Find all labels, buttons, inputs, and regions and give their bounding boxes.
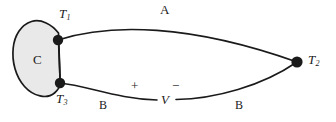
label-voltmeter-v: V: [161, 93, 169, 106]
thermocouple-diagram: T1 T3 T2 C A B B V + −: [0, 0, 336, 122]
label-polarity-positive: +: [131, 79, 138, 92]
label-wire-b-left: B: [99, 99, 107, 111]
label-polarity-negative: −: [172, 79, 179, 92]
wire-b-left-path: [60, 83, 157, 100]
wire-a-path: [58, 29, 297, 62]
label-wire-a: A: [160, 3, 169, 16]
wire-b-right-path: [176, 62, 297, 100]
junction-dot-t1: [53, 35, 63, 45]
label-junction-t3: T3: [56, 92, 67, 105]
junction-dot-t2: [291, 56, 302, 67]
label-junction-t1: T1: [59, 7, 70, 20]
label-body-c: C: [33, 53, 42, 66]
label-wire-b-right: B: [235, 99, 243, 111]
junction-dot-t3: [55, 78, 65, 88]
label-junction-t2: T2: [308, 53, 319, 66]
